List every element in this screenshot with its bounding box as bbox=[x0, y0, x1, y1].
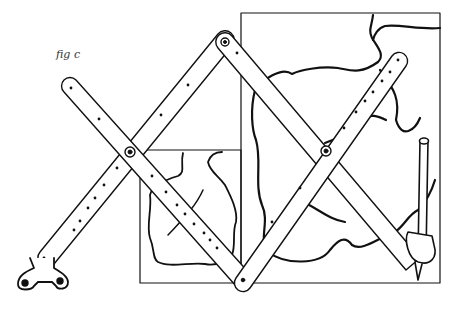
large-leaf-edge bbox=[373, 26, 440, 40]
anchor-bracket bbox=[18, 258, 68, 290]
pantograph-illustration bbox=[0, 0, 458, 310]
adjustment-holes bbox=[43, 52, 400, 260]
lower-pivot bbox=[241, 278, 245, 282]
